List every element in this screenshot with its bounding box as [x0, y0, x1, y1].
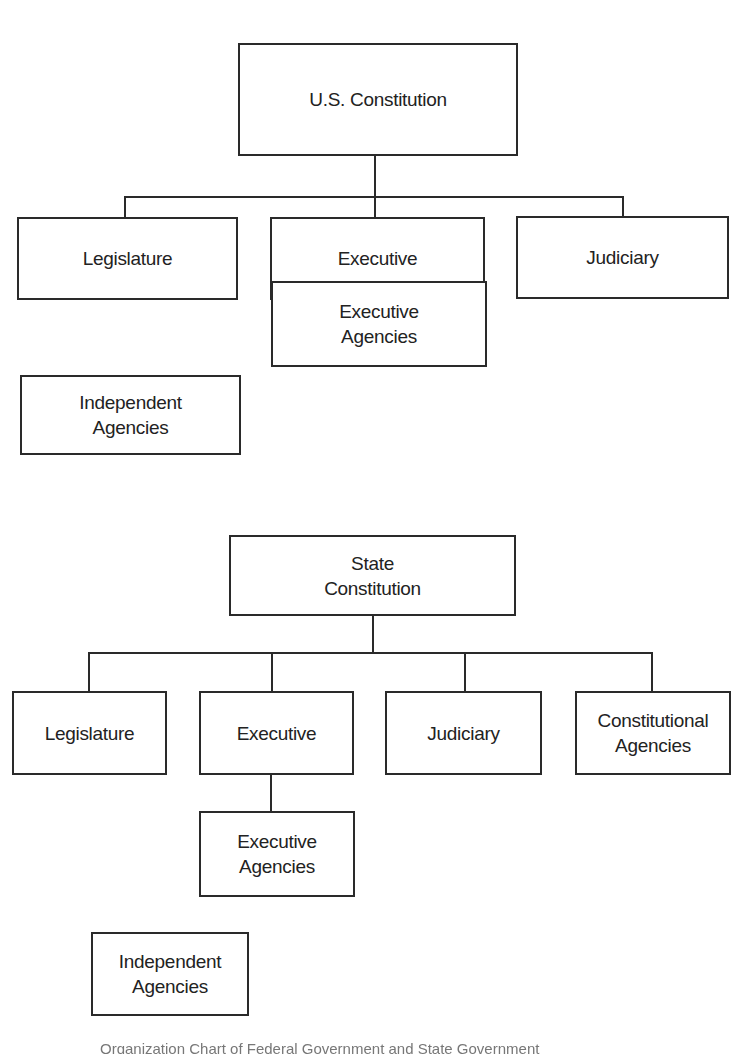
us-legislature-box: Legislature [17, 217, 238, 300]
state-independent-agencies-box: Independent Agencies [91, 932, 249, 1016]
us-constitution-box: U.S. Constitution [238, 43, 518, 156]
state-legislature-label: Legislature [45, 721, 135, 746]
state-constitution-label: State Constitution [324, 551, 421, 601]
state-constitution-box: State Constitution [229, 535, 516, 616]
connector-us-judiciary [622, 196, 624, 218]
us-executive-label: Executive [338, 246, 418, 271]
connector-us-root-stem [374, 155, 376, 198]
us-executive-agencies-box: Executive Agencies [271, 281, 487, 367]
us-independent-agencies-label: Independent Agencies [79, 390, 181, 440]
us-judiciary-box: Judiciary [516, 216, 729, 299]
connector-state-root-stem [372, 615, 374, 654]
us-legislature-label: Legislature [83, 246, 173, 271]
state-constitutional-agencies-box: Constitutional Agencies [575, 691, 731, 775]
connector-state-exec-agencies [270, 775, 272, 812]
figure-caption: Organization Chart of Federal Government… [100, 1040, 740, 1054]
state-judiciary-box: Judiciary [385, 691, 542, 775]
connector-us-legislature [124, 196, 126, 218]
us-constitution-label: U.S. Constitution [309, 87, 446, 112]
connector-state-executive [271, 652, 273, 692]
state-legislature-box: Legislature [12, 691, 167, 775]
state-judiciary-label: Judiciary [427, 721, 499, 746]
state-executive-box: Executive [199, 691, 354, 775]
state-independent-agencies-label: Independent Agencies [119, 949, 221, 999]
state-executive-agencies-box: Executive Agencies [199, 811, 355, 897]
state-constitutional-agencies-label: Constitutional Agencies [598, 708, 709, 758]
us-judiciary-label: Judiciary [586, 245, 658, 270]
connector-state-legislature [88, 652, 90, 692]
connector-us-executive [374, 196, 376, 218]
state-executive-agencies-label: Executive Agencies [237, 829, 317, 879]
connector-state-constitutional-agencies [651, 652, 653, 692]
state-executive-label: Executive [237, 721, 317, 746]
us-independent-agencies-box: Independent Agencies [20, 375, 241, 455]
us-executive-agencies-label: Executive Agencies [339, 299, 419, 349]
connector-state-judiciary [464, 652, 466, 692]
connector-state-branch-bar [88, 652, 653, 654]
